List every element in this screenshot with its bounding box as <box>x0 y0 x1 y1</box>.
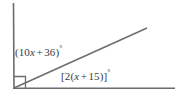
interior-angle-operator: + <box>35 46 44 58</box>
base-angle-constant: 15 <box>88 70 99 82</box>
interior-angle-coefficient: 10 <box>19 46 30 58</box>
interior-angle-label: (10x+36)° <box>15 46 63 58</box>
right-angle-marker <box>14 77 26 89</box>
base-angle-degree-symbol: ° <box>107 68 110 77</box>
interior-angle-degree-symbol: ° <box>59 44 62 53</box>
geometry-figure: (10x+36)° [2(x+15)]° <box>0 0 182 99</box>
interior-angle-constant: 36 <box>44 46 55 58</box>
vertical-ray <box>14 3 15 89</box>
base-angle-label: [2(x+15)]° <box>61 70 110 82</box>
